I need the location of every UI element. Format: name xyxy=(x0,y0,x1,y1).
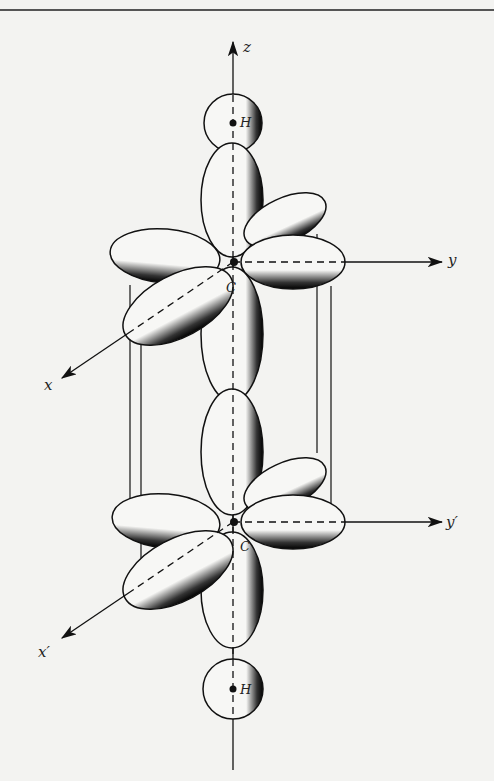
x-prime-axis-label: x′ xyxy=(38,645,50,660)
h-top-nucleus xyxy=(230,120,237,127)
h-bottom-nucleus xyxy=(230,686,237,693)
h-top-label: H xyxy=(240,116,251,129)
z-axis-label: z xyxy=(243,40,251,55)
h-bottom-label: H xyxy=(240,683,251,696)
x-axis-label: x xyxy=(44,378,52,393)
c-top-nucleus xyxy=(230,258,238,266)
c-bottom-label: C xyxy=(240,540,250,553)
x-axis xyxy=(62,332,130,378)
y-prime-axis-label: y′ xyxy=(446,515,458,530)
c-bottom-nucleus xyxy=(230,518,238,526)
x-prime-axis xyxy=(62,592,130,638)
y-axis-label: y xyxy=(448,253,456,268)
c-top-label: C xyxy=(226,281,236,294)
